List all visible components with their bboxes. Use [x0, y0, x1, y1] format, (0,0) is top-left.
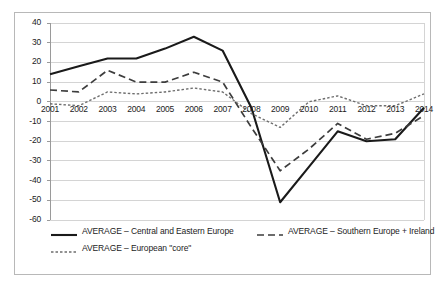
- x-tick-label: 2007: [210, 104, 236, 114]
- legend-item[interactable]: AVERAGE – European "core": [51, 240, 191, 255]
- x-tick-label: 2001: [37, 104, 63, 114]
- x-tick-label: 2011: [325, 104, 351, 114]
- chart-legend: AVERAGE – Central and Eastern EuropeAVER…: [29, 223, 429, 271]
- x-tick-label: 2005: [152, 104, 178, 114]
- x-tick-label: 2006: [181, 104, 207, 114]
- legend-label: AVERAGE – Central and Eastern Europe: [82, 226, 234, 236]
- x-tick-label: 2009: [267, 104, 293, 114]
- x-tick-label: 2012: [353, 104, 379, 114]
- y-tick-label: -40: [17, 175, 41, 185]
- legend-item[interactable]: AVERAGE – Central and Eastern Europe: [51, 223, 234, 238]
- legend-swatch-dotted: [51, 243, 77, 253]
- x-tick-label: 2010: [296, 104, 322, 114]
- legend-label: AVERAGE – Southern Europe + Ireland: [288, 226, 434, 236]
- legend-swatch-solid: [51, 226, 77, 236]
- y-tick-label: 30: [17, 37, 41, 47]
- y-tick-label: -10: [17, 116, 41, 126]
- y-tick-label: 20: [17, 56, 41, 66]
- legend-label: AVERAGE – European "core": [82, 243, 191, 253]
- x-tick-label: 2013: [382, 104, 408, 114]
- x-tick-label: 2014: [411, 104, 437, 114]
- series-line-0: [50, 37, 424, 202]
- y-tick-label: -50: [17, 194, 41, 204]
- legend-item[interactable]: AVERAGE – Southern Europe + Ireland: [257, 223, 434, 238]
- y-tick-label: -20: [17, 135, 41, 145]
- y-tick-label: -30: [17, 155, 41, 165]
- x-tick-label: 2002: [66, 104, 92, 114]
- legend-swatch-dashed: [257, 226, 283, 236]
- y-tick-label: 40: [17, 17, 41, 27]
- x-tick-label: 2004: [123, 104, 149, 114]
- x-tick-label: 2008: [238, 104, 264, 114]
- y-tick-label: 10: [17, 76, 41, 86]
- chart-figure: 403020100-10-20-30-40-50-60 200120022003…: [14, 12, 431, 275]
- series-line-1: [50, 70, 424, 170]
- x-tick-label: 2003: [95, 104, 121, 114]
